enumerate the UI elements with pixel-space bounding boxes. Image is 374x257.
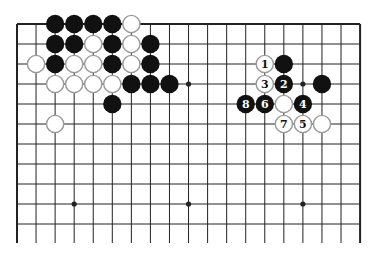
black-stone — [141, 75, 159, 93]
white-stone — [47, 115, 64, 132]
white-stone — [85, 75, 102, 92]
black-stone — [141, 35, 159, 53]
black-stone-disc — [313, 75, 331, 93]
white-stone-disc — [47, 115, 64, 132]
white-stone — [313, 115, 330, 132]
white-stone: 7 — [275, 115, 292, 132]
move-number: 2 — [280, 78, 288, 91]
move-number: 4 — [299, 98, 307, 111]
star-point — [72, 201, 77, 206]
black-stone — [46, 55, 64, 73]
white-stone — [275, 95, 292, 112]
move-number: 6 — [261, 98, 269, 111]
black-stone-disc — [103, 35, 121, 53]
black-stone-disc — [141, 75, 159, 93]
white-stone — [27, 55, 44, 72]
star-point — [300, 81, 305, 86]
white-stone-disc — [123, 15, 140, 32]
white-stone — [85, 55, 102, 72]
white-stone-disc — [85, 35, 102, 52]
white-stone-disc — [123, 55, 140, 72]
black-stone-disc — [65, 35, 83, 53]
black-stone-disc — [103, 15, 121, 33]
white-stone — [66, 55, 83, 72]
white-stone-disc — [85, 75, 102, 92]
black-stone-disc — [103, 95, 121, 113]
black-stone-disc — [122, 75, 140, 93]
black-stone — [65, 15, 83, 33]
go-board: 13286475 — [0, 0, 374, 257]
white-stone — [104, 75, 121, 92]
black-stone — [103, 95, 121, 113]
black-stone — [141, 55, 159, 73]
white-stone — [123, 55, 140, 72]
black-stone-disc — [275, 55, 293, 73]
white-stone-disc — [313, 115, 330, 132]
move-number: 7 — [280, 118, 288, 131]
white-stone-disc — [47, 75, 64, 92]
white-stone: 1 — [256, 55, 273, 72]
black-stone — [46, 15, 64, 33]
move-number: 5 — [299, 118, 307, 131]
black-stone — [275, 55, 293, 73]
black-stone: 6 — [256, 95, 274, 113]
star-point — [186, 201, 191, 206]
black-stone: 4 — [294, 95, 312, 113]
black-stone — [160, 75, 178, 93]
black-stone: 8 — [237, 95, 255, 113]
move-number: 8 — [242, 98, 250, 111]
white-stone-disc — [275, 95, 292, 112]
star-point — [186, 81, 191, 86]
black-stone — [103, 55, 121, 73]
move-number: 1 — [261, 58, 269, 71]
black-stone-disc — [46, 15, 64, 33]
white-stone: 5 — [294, 115, 311, 132]
black-stone — [46, 35, 64, 53]
black-stone-disc — [84, 15, 102, 33]
black-stone — [84, 15, 102, 33]
black-stone — [313, 75, 331, 93]
stones-layer: 13286475 — [27, 15, 331, 133]
white-stone — [85, 35, 102, 52]
white-stone — [123, 35, 140, 52]
white-stone-disc — [66, 55, 83, 72]
black-stone — [65, 35, 83, 53]
white-stone: 3 — [256, 75, 273, 92]
black-stone-disc — [141, 55, 159, 73]
white-stone-disc — [123, 35, 140, 52]
black-stone-disc — [103, 55, 121, 73]
white-stone-disc — [66, 75, 83, 92]
white-stone-disc — [27, 55, 44, 72]
black-stone — [122, 75, 140, 93]
white-stone — [123, 15, 140, 32]
white-stone — [66, 75, 83, 92]
star-point — [300, 201, 305, 206]
white-stone-disc — [85, 55, 102, 72]
black-stone-disc — [46, 35, 64, 53]
black-stone — [103, 15, 121, 33]
move-number: 3 — [261, 78, 269, 91]
black-stone: 2 — [275, 75, 293, 93]
black-stone-disc — [65, 15, 83, 33]
black-stone — [103, 35, 121, 53]
black-stone-disc — [160, 75, 178, 93]
black-stone-disc — [46, 55, 64, 73]
black-stone-disc — [141, 35, 159, 53]
white-stone — [47, 75, 64, 92]
white-stone-disc — [104, 75, 121, 92]
